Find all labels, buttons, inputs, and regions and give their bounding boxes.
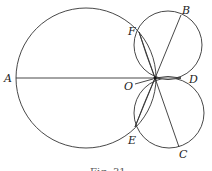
point-O xyxy=(153,76,156,79)
label-A: A xyxy=(3,72,12,85)
label-F: F xyxy=(127,25,136,38)
figure-caption: Fig. 31 xyxy=(90,166,126,171)
lower-small-circle xyxy=(134,78,204,148)
label-D: D xyxy=(188,73,198,86)
label-E: E xyxy=(127,134,136,147)
geometry-diagram: A O B C D E F Fig. 31 xyxy=(0,0,212,171)
label-C: C xyxy=(179,148,188,161)
lens-OD xyxy=(155,77,181,80)
label-O: O xyxy=(124,80,133,93)
upper-small-circle xyxy=(134,11,202,79)
label-B: B xyxy=(181,4,190,17)
